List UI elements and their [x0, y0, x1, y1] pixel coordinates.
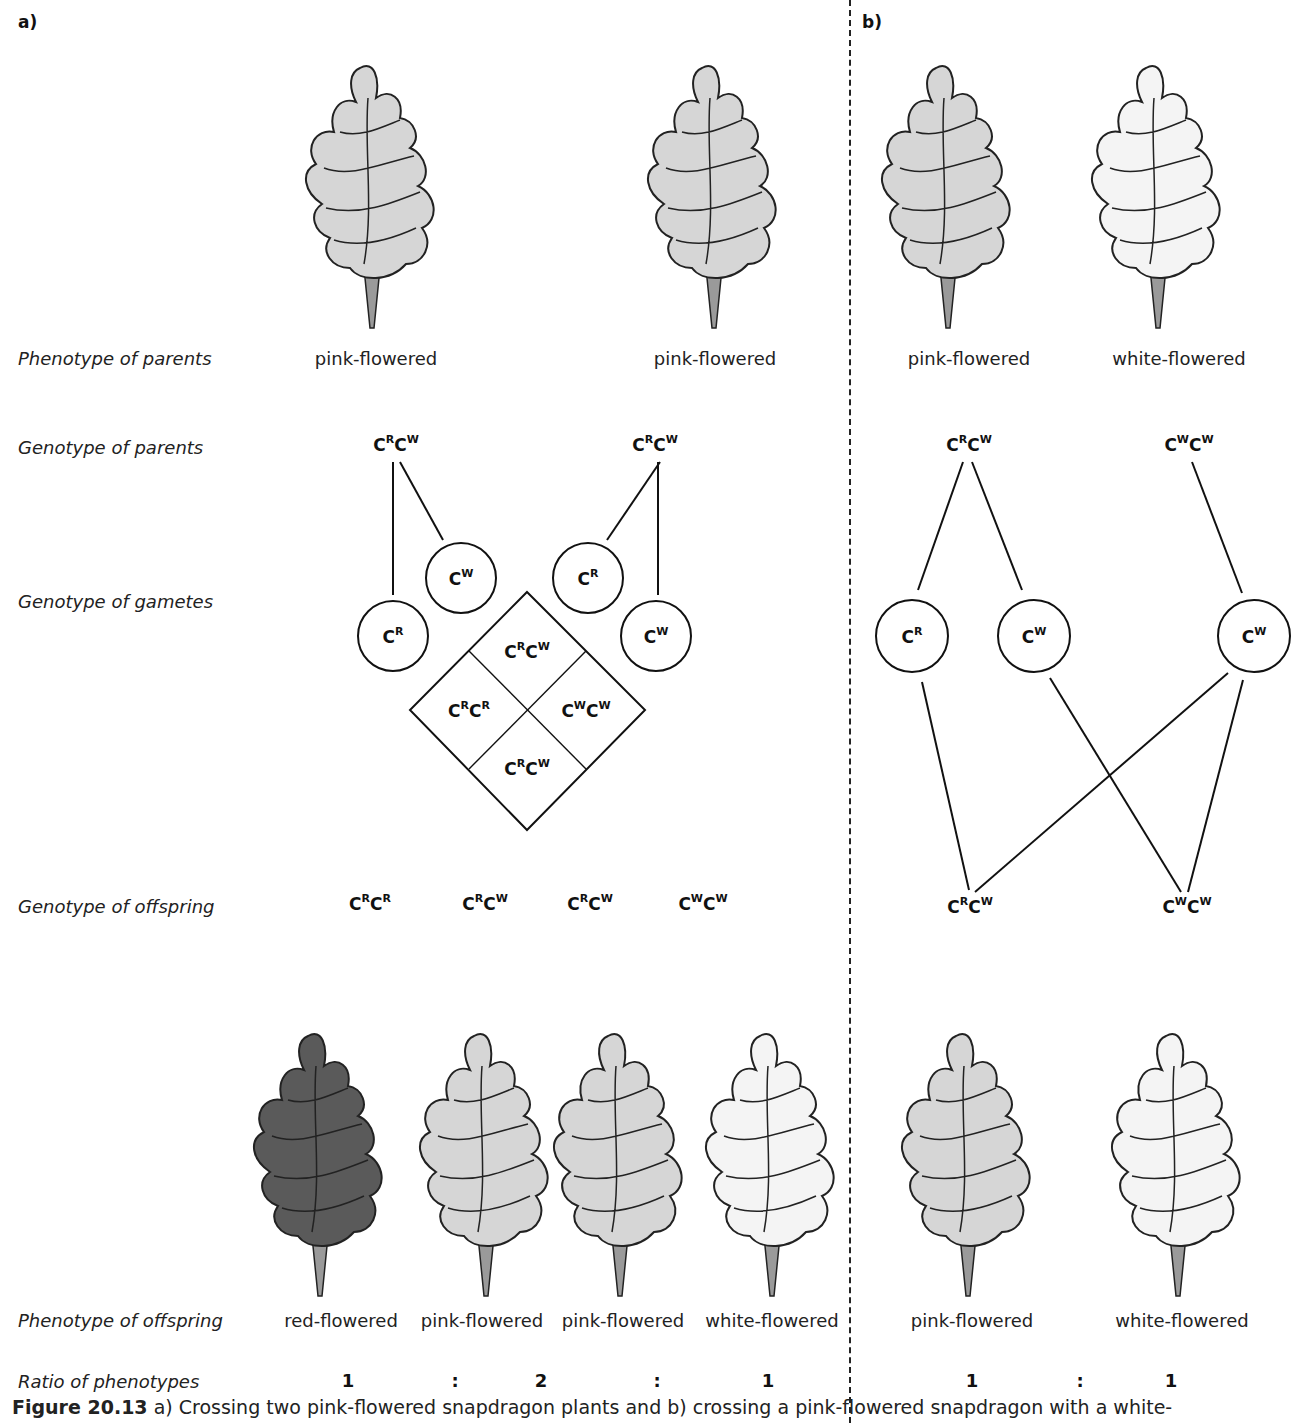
gamete-a4: CW — [644, 626, 669, 647]
row-label-phenotype-offspring: Phenotype of offspring — [18, 1310, 223, 1331]
row-label-ratio: Ratio of phenotypes — [18, 1371, 199, 1392]
phenotype-offspring-a3: pink-flowered — [562, 1310, 684, 1331]
gamete-a2: CW — [449, 568, 474, 589]
phenotype-offspring-a4: white-flowered — [705, 1310, 838, 1331]
ratio-a-sep1: : — [451, 1370, 458, 1391]
genotype-offspring-a3: CRCW — [567, 893, 613, 914]
row-label-genotype-parents: Genotype of parents — [18, 437, 203, 458]
figure-caption-text: a) Crossing two pink-flowered snapdragon… — [148, 1396, 1173, 1418]
phenotype-parent-b2: white-flowered — [1112, 348, 1245, 369]
phenotype-offspring-b2: white-flowered — [1115, 1310, 1248, 1331]
genotype-offspring-b2: CWCW — [1162, 896, 1211, 917]
ratio-a-1: 1 — [342, 1370, 355, 1391]
genotype-offspring-a1: CRCR — [349, 893, 391, 914]
gamete-a1: CR — [383, 626, 404, 647]
ratio-b-sep: : — [1076, 1370, 1083, 1391]
gamete-b2: CW — [1022, 626, 1047, 647]
row-label-phenotype-parents: Phenotype of parents — [18, 348, 212, 369]
genotype-offspring-a2: CRCW — [462, 893, 508, 914]
genotype-parent-a2: CRCW — [632, 434, 678, 455]
genotype-offspring-b1: CRCW — [947, 896, 993, 917]
genotype-offspring-a4: CWCW — [678, 893, 727, 914]
ratio-a-2: 2 — [535, 1370, 548, 1391]
cross-diagram-lines — [0, 0, 1298, 1423]
phenotype-parent-a1: pink-flowered — [315, 348, 437, 369]
genotype-parent-a1: CRCW — [373, 434, 419, 455]
row-label-genotype-offspring: Genotype of offspring — [18, 896, 215, 917]
ratio-b-1: 1 — [966, 1370, 979, 1391]
gamete-a3: CR — [578, 568, 599, 589]
punnett-cell-right: CWCW — [561, 700, 610, 721]
punnett-cell-left: CRCR — [448, 700, 490, 721]
genotype-parent-b2: CWCW — [1164, 434, 1213, 455]
phenotype-parent-a2: pink-flowered — [654, 348, 776, 369]
gamete-b1: CR — [902, 626, 923, 647]
figure-caption: Figure 20.13 a) Crossing two pink-flower… — [12, 1396, 1172, 1418]
punnett-cell-bottom: CRCW — [504, 758, 550, 779]
panel-b-label: b) — [862, 12, 882, 32]
plant-parent-a1 — [306, 66, 434, 328]
phenotype-offspring-b1: pink-flowered — [911, 1310, 1033, 1331]
panel-a-label: a) — [18, 12, 37, 32]
genotype-parent-b1: CRCW — [946, 434, 992, 455]
phenotype-offspring-a2: pink-flowered — [421, 1310, 543, 1331]
phenotype-offspring-a1: red-flowered — [284, 1310, 398, 1331]
ratio-a-sep2: : — [653, 1370, 660, 1391]
punnett-cell-top: CRCW — [504, 641, 550, 662]
gamete-b3: CW — [1242, 626, 1267, 647]
figure-caption-label: Figure 20.13 — [12, 1396, 148, 1418]
panel-divider — [849, 0, 851, 1423]
phenotype-parent-b1: pink-flowered — [908, 348, 1030, 369]
ratio-b-2: 1 — [1165, 1370, 1178, 1391]
row-label-genotype-gametes: Genotype of gametes — [18, 591, 213, 612]
ratio-a-3: 1 — [762, 1370, 775, 1391]
